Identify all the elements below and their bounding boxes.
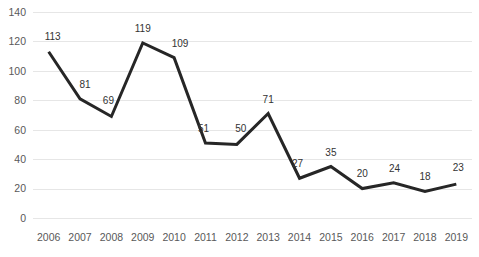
chart-canvas: 140120100806040200 200620072008200920102… — [0, 0, 479, 257]
x-axis-tick-label: 2013 — [256, 231, 280, 243]
data-point-label: 51 — [198, 123, 210, 134]
line-chart: 140120100806040200 200620072008200920102… — [0, 0, 479, 257]
data-point-label: 113 — [45, 31, 61, 42]
x-axis-tick-label: 2007 — [68, 231, 92, 243]
x-axis-tick-label: 2016 — [351, 231, 375, 243]
x-axis-tick-label: 2018 — [413, 231, 437, 243]
x-axis-tick-label: 2011 — [194, 231, 217, 243]
data-point-label: 71 — [263, 94, 275, 105]
y-axis-tick-label: 0 — [20, 212, 26, 224]
data-point-label: 23 — [453, 162, 465, 173]
x-axis-tick-label: 2012 — [225, 231, 249, 243]
data-point-label: 27 — [292, 158, 304, 169]
x-axis-tick-label: 2010 — [162, 231, 186, 243]
x-axis-tick-label: 2017 — [382, 231, 406, 243]
x-axis-tick-label: 2006 — [37, 231, 61, 243]
data-point-label: 109 — [172, 38, 189, 49]
y-axis-tick-label: 100 — [8, 65, 26, 77]
x-axis-tick-label: 2015 — [319, 231, 343, 243]
y-axis-tick-label: 20 — [14, 182, 26, 194]
y-axis-tick-label: 120 — [8, 35, 26, 47]
x-axis-tick-label: 2008 — [100, 231, 124, 243]
x-axis-tick-label: 2014 — [288, 231, 312, 243]
data-point-label: 50 — [235, 123, 247, 134]
data-point-label: 24 — [389, 163, 401, 174]
x-axis-tick-label: 2019 — [445, 231, 469, 243]
y-axis-tick-label: 80 — [14, 94, 26, 106]
y-axis-tick-label: 60 — [14, 124, 26, 136]
data-point-label: 81 — [79, 79, 91, 90]
x-axis-tick-label: 2009 — [131, 231, 155, 243]
data-point-label: 18 — [419, 171, 431, 182]
data-point-label: 69 — [103, 95, 115, 106]
y-axis-tick-label: 140 — [8, 6, 26, 18]
data-point-label: 20 — [357, 168, 369, 179]
data-point-label: 119 — [135, 23, 151, 34]
y-axis-tick-label: 40 — [14, 153, 26, 165]
data-point-label: 35 — [325, 147, 337, 158]
